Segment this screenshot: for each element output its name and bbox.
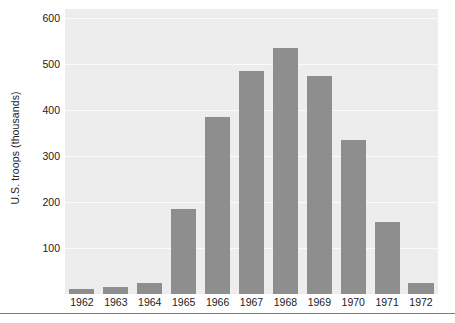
x-axis-tick-label: 1963 [104, 296, 127, 308]
bar [239, 71, 264, 294]
y-axis-title: U.S. troops (thousands) [0, 0, 30, 296]
y-axis-tick-label: 200 [42, 196, 60, 208]
bar [137, 283, 162, 294]
bar [341, 140, 366, 294]
x-axis-tick-label: 1969 [308, 296, 331, 308]
bar [205, 117, 230, 294]
bar [408, 283, 433, 294]
bar [375, 222, 400, 294]
plot-area [65, 9, 438, 294]
x-axis-tick-label: 1971 [375, 296, 398, 308]
bar [103, 287, 128, 294]
bar-chart-figure: U.S. troops (thousands) 1002003004005006… [0, 0, 455, 323]
bar [273, 48, 298, 294]
x-axis-tick-label: 1972 [409, 296, 432, 308]
x-axis-tick-label: 1968 [274, 296, 297, 308]
bar [307, 76, 332, 294]
x-axis-tick-label: 1966 [206, 296, 229, 308]
bar [69, 289, 94, 294]
x-axis-tick-label: 1965 [172, 296, 195, 308]
bar-series [65, 9, 438, 294]
x-axis-tick-label: 1967 [240, 296, 263, 308]
y-axis-tick-label: 300 [42, 150, 60, 162]
x-axis-tick-labels: 1962196319641965196619671968196919701971… [65, 296, 438, 312]
y-axis-tick-label: 100 [42, 242, 60, 254]
y-axis-tick-label: 600 [42, 12, 60, 24]
y-axis-title-text: U.S. troops (thousands) [9, 91, 21, 204]
x-axis-tick-label: 1962 [70, 296, 93, 308]
x-axis-tick-label: 1964 [138, 296, 161, 308]
x-axis-tick-label: 1970 [342, 296, 365, 308]
y-axis-tick-labels: 100200300400500600 [28, 0, 64, 296]
y-axis-tick-label: 400 [42, 104, 60, 116]
bottom-rule-divider [0, 313, 455, 314]
bar [171, 209, 196, 294]
y-axis-tick-label: 500 [42, 58, 60, 70]
